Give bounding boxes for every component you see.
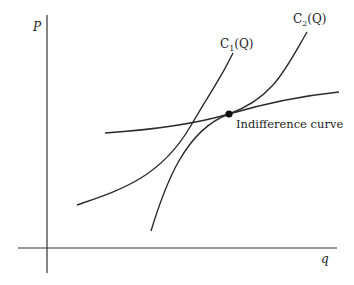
x-axis-label: q [321,252,329,266]
y-axis-label: P [32,20,42,34]
diagram-svg: P q C1(Q) C2(Q) Indifference curve [0,0,354,285]
tangency-point [225,110,232,117]
diagram-canvas: P q C1(Q) C2(Q) Indifference curve [0,0,354,285]
c1-label: C1(Q) [220,37,253,53]
c2-label: C2(Q) [293,12,326,28]
indifference-curve-label: Indifference curve [236,117,343,131]
